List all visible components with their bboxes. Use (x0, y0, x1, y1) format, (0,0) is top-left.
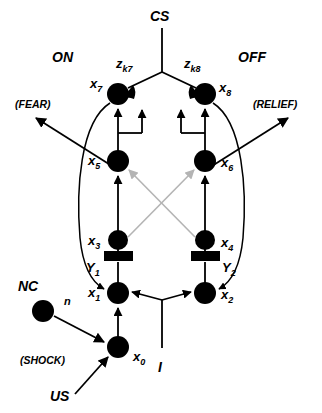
label-x7-sub: 7 (97, 84, 103, 94)
labels-group: CS ON OFF zk7 zk8 (FEAR) (RELIEF) (SHOCK… (15, 8, 298, 404)
node-x8[interactable] (194, 83, 216, 105)
label-on: ON (52, 49, 74, 65)
fear-output-arrow (36, 118, 112, 166)
label-x3: x3 (87, 233, 100, 251)
label-cs: CS (150, 8, 170, 24)
i-to-x2-arrow (162, 292, 191, 300)
label-us: US (50, 388, 70, 404)
node-x4[interactable] (195, 230, 215, 250)
diagram-canvas: CS ON OFF zk7 zk8 (FEAR) (RELIEF) (SHOCK… (0, 0, 322, 413)
neural-circuit-diagram: CS ON OFF zk7 zk8 (FEAR) (RELIEF) (SHOCK… (0, 0, 322, 413)
tonic-input-group (132, 292, 191, 348)
label-zk7-sub: k7 (123, 64, 134, 74)
label-x5: x5 (87, 153, 101, 171)
label-x1-sub: 1 (95, 293, 100, 303)
label-x8-sub: 8 (226, 88, 231, 98)
label-zk8-sub: k8 (191, 64, 201, 74)
node-x1[interactable] (107, 282, 129, 304)
label-x2-sub: 2 (227, 295, 233, 305)
label-x5-sub: 5 (95, 161, 101, 171)
feedback-loop-group (79, 103, 245, 289)
label-x1: x1 (87, 285, 100, 303)
output-arrows-group (36, 118, 288, 166)
recurrent-loops-group (118, 110, 205, 133)
i-to-x1-arrow (132, 292, 162, 300)
crossed-connections-group (128, 170, 195, 237)
nodes-group (32, 83, 216, 358)
gate-bars-group (104, 251, 220, 261)
label-x2: x2 (220, 287, 233, 305)
node-nc[interactable] (32, 300, 54, 322)
node-x7[interactable] (107, 83, 129, 105)
label-x7: x7 (89, 76, 103, 94)
label-n: n (64, 295, 71, 307)
label-fear: (FEAR) (15, 98, 51, 110)
label-x4: x4 (220, 235, 233, 253)
y1-gate-bar (104, 251, 133, 261)
label-y1: Y1 (86, 260, 100, 278)
label-shock: (SHOCK) (20, 354, 65, 366)
node-x3[interactable] (108, 230, 128, 250)
label-y2: Y2 (222, 260, 236, 278)
label-y2-sub: 2 (230, 268, 236, 278)
label-zk7: zk7 (115, 56, 134, 74)
node-x6[interactable] (194, 150, 216, 172)
node-x5[interactable] (107, 150, 129, 172)
label-zk8: zk8 (183, 56, 201, 74)
node-x2[interactable] (194, 282, 216, 304)
label-x4-sub: 4 (227, 243, 233, 253)
node-labels: x0x1x2x3x4x5x6x7x8 (87, 76, 234, 367)
us-to-x0-arrow (75, 357, 108, 394)
label-x3-sub: 3 (95, 241, 100, 251)
node-x0[interactable] (107, 336, 129, 358)
label-y1-sub: 1 (95, 268, 100, 278)
nc-to-x0-arrow (54, 316, 104, 342)
label-x6: x6 (220, 155, 234, 173)
label-x6-sub: 6 (228, 163, 234, 173)
label-i: I (158, 359, 163, 375)
y2-gate-bar (191, 251, 220, 261)
label-x0: x0 (132, 349, 145, 367)
label-x8: x8 (218, 80, 231, 98)
label-relief: (RELIEF) (253, 98, 298, 110)
label-x0-sub: 0 (140, 357, 145, 367)
label-nc: NC (18, 278, 39, 294)
label-off: OFF (238, 49, 266, 65)
